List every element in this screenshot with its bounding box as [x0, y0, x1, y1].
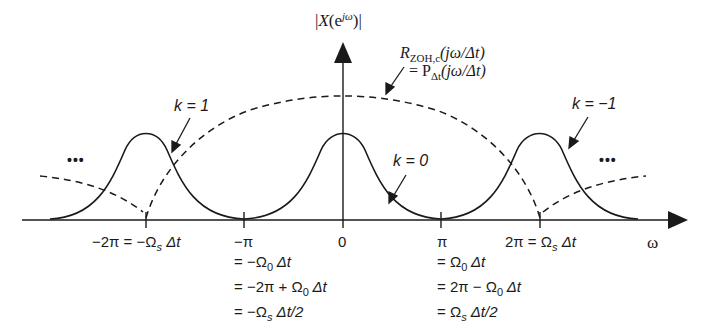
spectrum-diagram: [0, 0, 703, 334]
k1-pointer-icon: [172, 141, 180, 152]
y-axis-label: |X(ejω)|: [315, 8, 362, 29]
omega-axis-arrow-icon: [668, 211, 688, 229]
magnitude-axis-arrow-icon: [334, 42, 352, 63]
replica-km1-curve: [441, 134, 638, 220]
km1-label: k = −1: [572, 95, 616, 112]
spectral-replicas: [50, 134, 638, 220]
envelope-pointer-icon: [386, 83, 394, 94]
km1-pointer-icon: [569, 137, 578, 148]
tick-label-2pi: 2π = Ωs Δt: [505, 232, 576, 257]
k1-label: k = 1: [174, 97, 209, 114]
replica-k1-curve: [50, 134, 244, 220]
ellipsis-left: •••: [67, 152, 85, 169]
tick-label-zero: 0: [338, 232, 346, 252]
k0-label: k = 0: [393, 152, 428, 169]
envelope-label-line2: = PΔt(jω/Δt): [409, 62, 486, 85]
ellipsis-right: •••: [599, 152, 617, 169]
omega-axis-label: ω: [647, 234, 658, 251]
tick-label-negpi: −π = −Ω0 Δt = −2π + Ω0 Δt = −Ωs Δt/2: [234, 232, 327, 327]
tick-label-neg2pi: −2π = −Ωs Δt: [92, 232, 180, 257]
omega-axis: [22, 211, 688, 229]
